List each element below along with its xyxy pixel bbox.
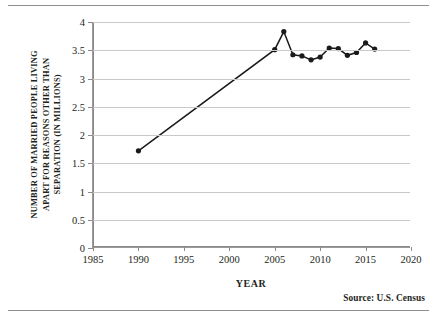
y-axis-tick	[88, 163, 93, 164]
gridline-y	[93, 135, 410, 136]
y-axis-tick	[88, 192, 93, 193]
plot-area: 1990: 1.722005: 3.512006: 3.832007: 3.42…	[92, 22, 410, 248]
data-point-marker: 2013: 3.41	[345, 53, 350, 58]
x-axis-tick	[366, 247, 367, 251]
x-axis-tick	[184, 247, 185, 251]
bottom-divider-rule	[8, 310, 429, 311]
data-point-marker: 2007: 3.42	[290, 52, 295, 57]
figure-container: NUMBER OF MARRIED PEOPLE LIVING APART FO…	[0, 0, 437, 324]
y-axis-title-line-3: SEPARATION (IN MILLIONS)	[52, 9, 64, 259]
y-axis-tick	[88, 135, 93, 136]
x-axis-tick	[411, 247, 412, 251]
gridline-y	[93, 192, 410, 193]
x-axis-tick-label: 2010	[310, 254, 331, 265]
y-axis-tick-label: 1.5	[72, 158, 85, 169]
x-axis-tick	[93, 247, 94, 251]
gridline-y	[93, 220, 410, 221]
x-axis-tick-label: 1995	[173, 254, 194, 265]
y-axis-tick	[88, 220, 93, 221]
source-note: Source: U.S. Census	[343, 293, 425, 303]
gridline-y	[93, 50, 410, 51]
y-axis-tick-label: 3.5	[72, 45, 85, 56]
data-point-marker: 1990: 1.72	[136, 148, 141, 153]
x-axis-title: YEAR	[92, 278, 410, 289]
data-point-marker: 2015: 3.63	[363, 40, 368, 45]
y-axis-title: NUMBER OF MARRIED PEOPLE LIVING APART FO…	[29, 9, 64, 259]
gridline-y	[93, 163, 410, 164]
y-axis-tick-label: 4	[80, 17, 85, 28]
gridline-y	[93, 22, 410, 23]
y-axis-tick	[88, 22, 93, 23]
y-axis-tick-label: 0	[80, 243, 85, 254]
x-axis-tick-label: 2005	[264, 254, 285, 265]
data-point-marker: 2010: 3.38	[318, 54, 323, 59]
x-axis-tick	[229, 247, 230, 251]
y-axis-tick	[88, 50, 93, 51]
x-axis-tick-label: 2015	[355, 254, 376, 265]
y-axis-tick-label: 0.5	[72, 214, 85, 225]
y-axis-tick-label: 2	[80, 130, 85, 141]
data-point-marker: 2008: 3.4	[299, 53, 304, 58]
data-point-marker: 2006: 3.83	[281, 29, 286, 34]
x-axis-tick	[320, 247, 321, 251]
x-axis-tick-label: 1985	[83, 254, 104, 265]
x-axis-tick-label: 2000	[219, 254, 240, 265]
y-axis-tick	[88, 107, 93, 108]
y-axis-tick-label: 3	[80, 73, 85, 84]
y-axis-tick-label: 1	[80, 186, 85, 197]
gridline-y	[93, 107, 410, 108]
x-axis-tick-label: 2020	[401, 254, 422, 265]
gridline-y	[93, 79, 410, 80]
x-axis-tick	[138, 247, 139, 251]
x-axis-tick	[275, 247, 276, 251]
y-axis-tick-label: 2.5	[72, 101, 85, 112]
y-axis-tick	[88, 79, 93, 80]
x-axis-tick-label: 1990	[128, 254, 149, 265]
top-divider-rule	[8, 5, 429, 6]
y-axis-title-line-1: NUMBER OF MARRIED PEOPLE LIVING	[29, 9, 41, 259]
y-axis-title-line-2: APART FOR REASONS OTHER THAN	[40, 9, 52, 259]
data-point-marker: 2009: 3.33	[308, 57, 313, 62]
